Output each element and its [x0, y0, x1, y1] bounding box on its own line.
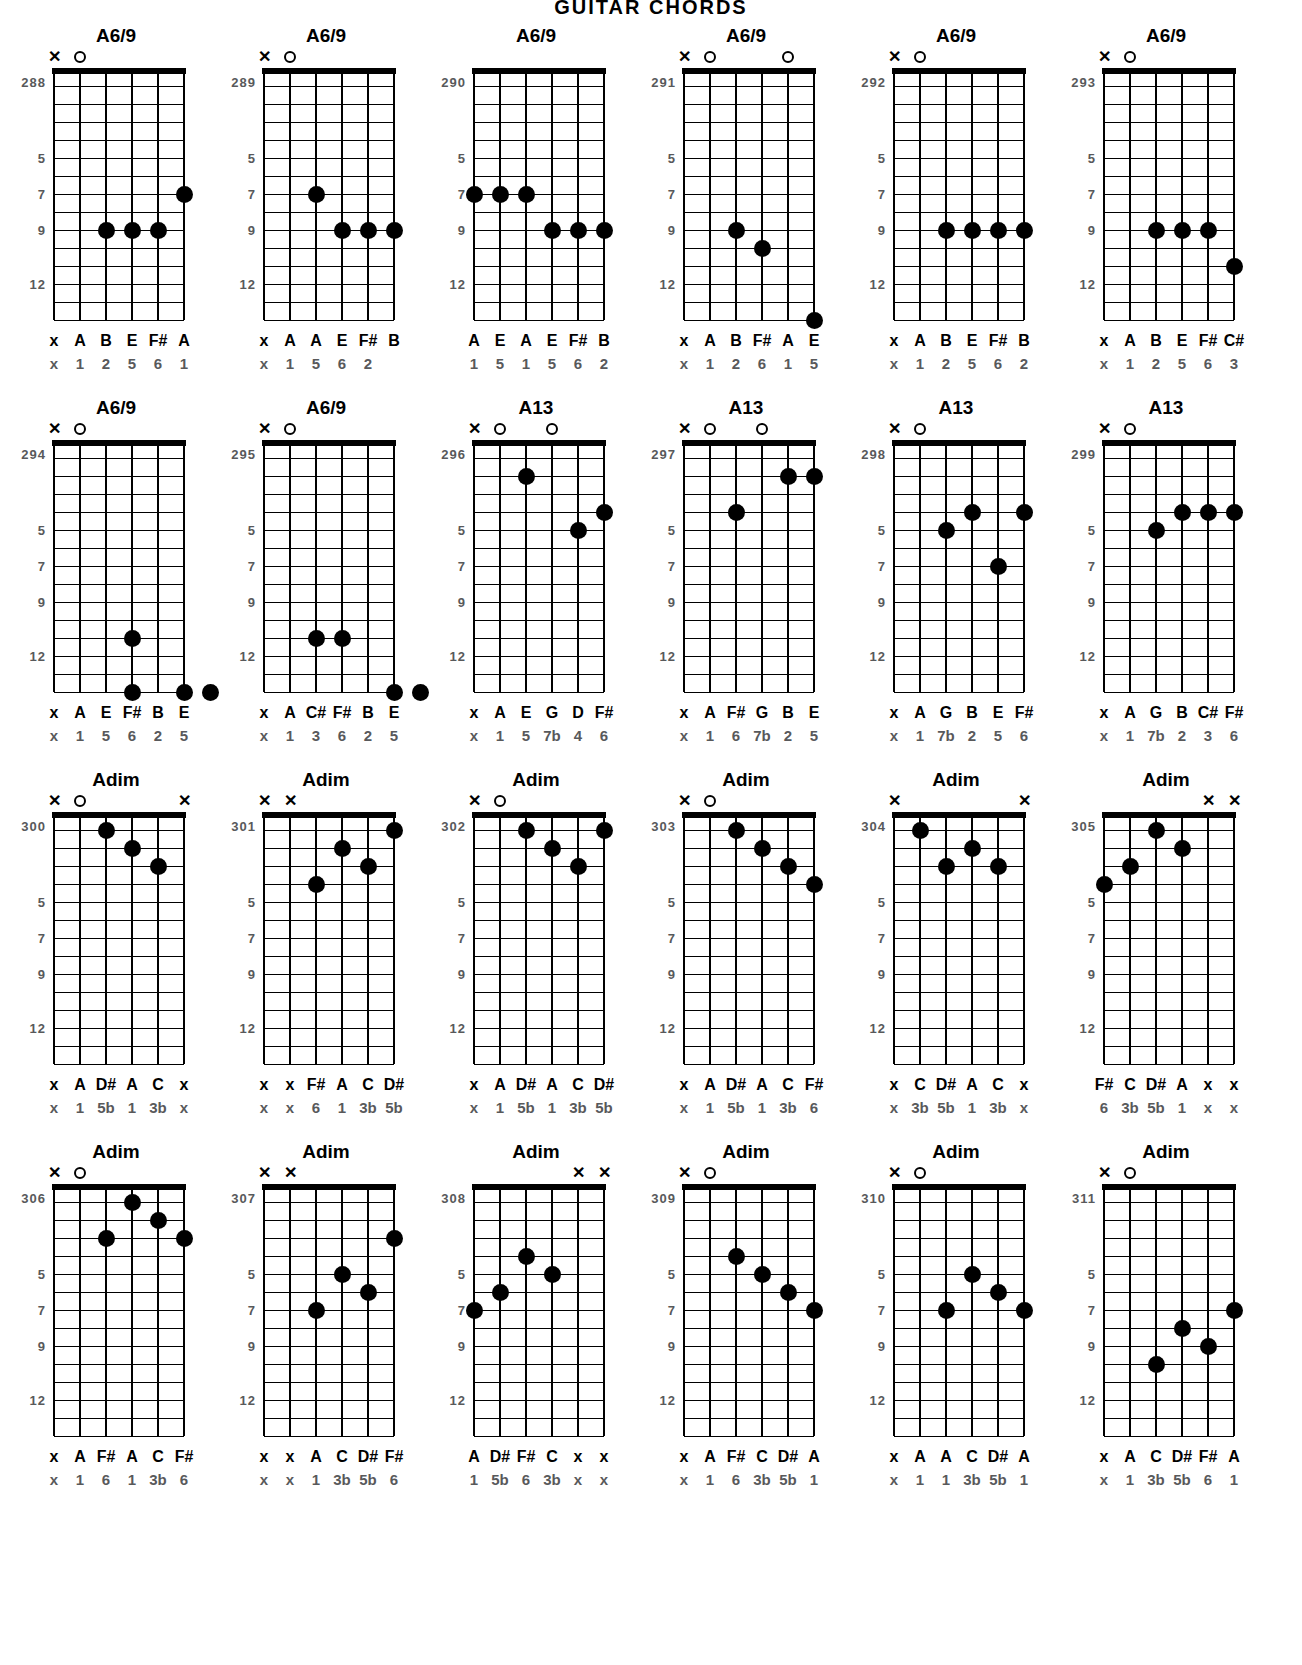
finger-dot[interactable] [124, 840, 141, 857]
finger-dot[interactable] [1148, 222, 1165, 239]
finger-dot[interactable] [176, 1230, 193, 1247]
chord-diagram[interactable]: A6/929357912xABEF#C#x12563 [1050, 24, 1260, 378]
finger-dot[interactable] [1016, 222, 1033, 239]
finger-dot[interactable] [124, 222, 141, 239]
fretboard[interactable] [1104, 440, 1234, 692]
finger-dot[interactable] [938, 522, 955, 539]
finger-dot[interactable] [1148, 522, 1165, 539]
chord-diagram[interactable]: A1329657912xAEGDF#x157b46 [420, 396, 630, 750]
finger-dot[interactable] [1200, 504, 1217, 521]
chord-diagram[interactable]: Adim30157912xxF#ACD#xx613b5b [210, 768, 420, 1122]
finger-dot[interactable] [308, 630, 325, 647]
finger-dot[interactable] [98, 822, 115, 839]
finger-dot[interactable] [492, 186, 509, 203]
finger-dot[interactable] [466, 1302, 483, 1319]
finger-dot[interactable] [728, 822, 745, 839]
fretboard[interactable] [264, 68, 394, 320]
finger-dot[interactable] [360, 858, 377, 875]
fretboard[interactable] [894, 68, 1024, 320]
finger-dot[interactable] [386, 222, 403, 239]
finger-dot[interactable] [176, 186, 193, 203]
fretboard[interactable] [684, 812, 814, 1064]
finger-dot[interactable] [518, 822, 535, 839]
finger-dot[interactable] [544, 222, 561, 239]
finger-dot[interactable] [466, 186, 483, 203]
finger-dot[interactable] [964, 504, 981, 521]
fretboard[interactable] [474, 812, 604, 1064]
chord-diagram[interactable]: A6/928957912xAAEF#Bx1562 [210, 24, 420, 378]
chord-diagram[interactable]: A1329957912xAGBC#F#x17b236 [1050, 396, 1260, 750]
fretboard[interactable] [684, 68, 814, 320]
fretboard[interactable] [474, 1184, 604, 1436]
finger-dot[interactable] [1016, 1302, 1033, 1319]
chord-diagram[interactable]: Adim30457912xCD#ACxx3b5b13bx [840, 768, 1050, 1122]
finger-dot[interactable] [806, 876, 823, 893]
finger-dot[interactable] [570, 858, 587, 875]
chord-diagram[interactable]: Adim30657912xAF#ACF#x1613b6 [0, 1140, 210, 1494]
chord-diagram[interactable]: A6/928857912xABEF#Ax12561 [0, 24, 210, 378]
finger-dot[interactable] [308, 1302, 325, 1319]
chord-diagram[interactable]: A6/929057912AEAEF#B151562 [420, 24, 630, 378]
finger-dot[interactable] [544, 840, 561, 857]
finger-dot[interactable] [964, 1266, 981, 1283]
fretboard[interactable] [264, 1184, 394, 1436]
finger-dot[interactable] [1226, 1302, 1243, 1319]
finger-dot[interactable] [990, 558, 1007, 575]
finger-dot[interactable] [596, 222, 613, 239]
fretboard[interactable] [1104, 1184, 1234, 1436]
finger-dot[interactable] [964, 840, 981, 857]
finger-dot[interactable] [98, 222, 115, 239]
fretboard[interactable] [474, 440, 604, 692]
finger-dot[interactable] [806, 1302, 823, 1319]
finger-dot[interactable] [334, 840, 351, 857]
finger-dot[interactable] [1174, 1320, 1191, 1337]
fretboard[interactable] [684, 440, 814, 692]
chord-diagram[interactable]: A6/929157912xABF#AEx12615 [630, 24, 840, 378]
fretboard[interactable] [684, 1184, 814, 1436]
chord-diagram[interactable]: Adim30257912xAD#ACD#x15b13b5b [420, 768, 630, 1122]
finger-dot[interactable] [1096, 876, 1113, 893]
finger-dot[interactable] [780, 858, 797, 875]
finger-dot[interactable] [124, 1194, 141, 1211]
finger-dot[interactable] [150, 222, 167, 239]
fretboard[interactable] [894, 440, 1024, 692]
finger-dot[interactable] [150, 1212, 167, 1229]
finger-dot[interactable] [912, 822, 929, 839]
finger-dot[interactable] [1226, 504, 1243, 521]
finger-dot[interactable] [386, 1230, 403, 1247]
finger-dot[interactable] [1174, 222, 1191, 239]
finger-dot[interactable] [990, 858, 1007, 875]
finger-dot[interactable] [728, 222, 745, 239]
finger-dot[interactable] [1148, 1356, 1165, 1373]
finger-dot[interactable] [98, 1230, 115, 1247]
finger-dot[interactable] [176, 684, 193, 701]
fretboard[interactable] [894, 1184, 1024, 1436]
chord-diagram[interactable]: A1329857912xAGBEF#x17b256 [840, 396, 1050, 750]
fretboard[interactable] [264, 812, 394, 1064]
fretboard[interactable] [54, 812, 184, 1064]
finger-dot[interactable] [360, 1284, 377, 1301]
finger-dot[interactable] [334, 1266, 351, 1283]
chord-diagram[interactable]: Adim30957912xAF#CD#Ax163b5b1 [630, 1140, 840, 1494]
finger-dot[interactable] [596, 504, 613, 521]
finger-dot[interactable] [334, 630, 351, 647]
finger-dot[interactable] [990, 1284, 1007, 1301]
finger-dot[interactable] [570, 222, 587, 239]
finger-dot[interactable] [492, 1284, 509, 1301]
finger-dot[interactable] [518, 1248, 535, 1265]
finger-dot[interactable] [938, 858, 955, 875]
finger-dot[interactable] [938, 222, 955, 239]
finger-dot[interactable] [806, 312, 823, 329]
finger-dot[interactable] [518, 186, 535, 203]
chord-diagram[interactable]: Adim31057912xAACD#Ax113b5b1 [840, 1140, 1050, 1494]
finger-dot[interactable] [728, 1248, 745, 1265]
finger-dot[interactable] [1200, 1338, 1217, 1355]
finger-dot[interactable] [754, 840, 771, 857]
finger-dot[interactable] [780, 468, 797, 485]
finger-dot[interactable] [334, 222, 351, 239]
finger-dot[interactable] [1174, 504, 1191, 521]
finger-dot[interactable] [386, 822, 403, 839]
fretboard[interactable] [54, 440, 184, 692]
finger-dot[interactable] [780, 1284, 797, 1301]
finger-dot[interactable] [124, 684, 141, 701]
